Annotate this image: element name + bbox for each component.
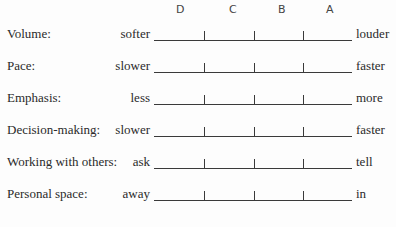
right-anchor: faster <box>356 122 385 138</box>
right-anchor: tell <box>356 154 373 170</box>
header-b: B <box>278 3 286 16</box>
scale-line[interactable] <box>154 136 352 137</box>
tick <box>254 95 255 105</box>
tick <box>254 159 255 169</box>
tick <box>303 31 304 41</box>
left-anchor: ask <box>133 154 150 170</box>
scale-line[interactable] <box>154 40 352 41</box>
row-label: Working with others: <box>7 154 117 170</box>
tick <box>303 127 304 137</box>
scale-row-personal-space: Personal space: away in <box>0 186 396 206</box>
scale-line[interactable] <box>154 200 352 201</box>
tick <box>303 63 304 73</box>
header-c: C <box>229 3 237 16</box>
left-anchor: softer <box>120 26 150 42</box>
tick <box>204 63 205 73</box>
scale-row-working-with-others: Working with others: ask tell <box>0 154 396 174</box>
row-label: Volume: <box>7 26 51 42</box>
tick <box>204 31 205 41</box>
scale-row-emphasis: Emphasis: less more <box>0 90 396 110</box>
tick <box>204 95 205 105</box>
row-label: Emphasis: <box>7 90 61 106</box>
row-label: Personal space: <box>7 186 88 202</box>
left-anchor: less <box>131 90 151 106</box>
left-anchor: slower <box>115 122 150 138</box>
tick <box>254 63 255 73</box>
right-anchor: faster <box>356 58 385 74</box>
left-anchor: slower <box>115 58 150 74</box>
scale-row-decision-making: Decision-making: slower faster <box>0 122 396 142</box>
right-anchor: in <box>356 186 366 202</box>
tick <box>254 191 255 201</box>
tick <box>254 31 255 41</box>
tick <box>303 159 304 169</box>
tick <box>254 127 255 137</box>
row-label: Pace: <box>7 58 35 74</box>
row-label: Decision-making: <box>7 122 100 138</box>
header-d: D <box>176 3 184 16</box>
tick <box>303 95 304 105</box>
scale-row-volume: Volume: softer louder <box>0 26 396 46</box>
left-anchor: away <box>123 186 150 202</box>
right-anchor: louder <box>356 26 389 42</box>
tick <box>204 127 205 137</box>
tick <box>204 191 205 201</box>
scale-line[interactable] <box>154 168 352 169</box>
header-a: A <box>326 3 334 16</box>
scale-line[interactable] <box>154 104 352 105</box>
tick <box>204 159 205 169</box>
scale-line[interactable] <box>154 72 352 73</box>
scale-row-pace: Pace: slower faster <box>0 58 396 78</box>
tick <box>303 191 304 201</box>
right-anchor: more <box>356 90 383 106</box>
